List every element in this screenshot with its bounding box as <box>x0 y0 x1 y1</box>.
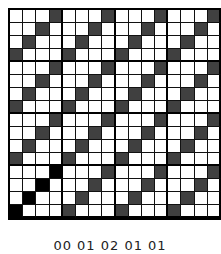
empty-cell <box>142 36 155 49</box>
empty-cell <box>36 153 49 166</box>
empty-cell <box>181 62 194 75</box>
empty-cell <box>50 153 63 166</box>
filled-cell <box>102 10 115 23</box>
filled-cell <box>63 101 76 114</box>
empty-cell <box>129 114 142 127</box>
filled-cell <box>195 23 208 36</box>
empty-cell <box>102 192 115 205</box>
empty-cell <box>129 62 142 75</box>
filled-cell <box>23 192 36 205</box>
empty-cell <box>63 75 76 88</box>
filled-cell <box>10 101 23 114</box>
filled-cell <box>36 127 49 140</box>
filled-cell <box>168 49 181 62</box>
empty-cell <box>129 205 142 218</box>
empty-cell <box>155 88 168 101</box>
filled-cell <box>208 62 221 75</box>
empty-cell <box>208 192 221 205</box>
empty-cell <box>36 205 49 218</box>
empty-cell <box>102 23 115 36</box>
empty-cell <box>63 62 76 75</box>
empty-cell <box>168 10 181 23</box>
empty-cell <box>168 166 181 179</box>
empty-cell <box>23 153 36 166</box>
empty-cell <box>10 75 23 88</box>
empty-cell <box>102 140 115 153</box>
empty-cell <box>181 75 194 88</box>
empty-cell <box>116 179 129 192</box>
empty-cell <box>76 23 89 36</box>
filled-cell <box>129 88 142 101</box>
empty-cell <box>181 166 194 179</box>
filled-cell <box>36 179 49 192</box>
filled-cell <box>89 23 102 36</box>
empty-cell <box>129 127 142 140</box>
empty-cell <box>129 153 142 166</box>
filled-cell <box>155 62 168 75</box>
empty-cell <box>50 179 63 192</box>
empty-cell <box>195 62 208 75</box>
filled-cell <box>181 192 194 205</box>
empty-cell <box>155 75 168 88</box>
filled-cell <box>168 101 181 114</box>
empty-cell <box>10 62 23 75</box>
empty-cell <box>142 49 155 62</box>
empty-cell <box>142 166 155 179</box>
empty-cell <box>168 88 181 101</box>
empty-cell <box>168 179 181 192</box>
empty-cell <box>10 36 23 49</box>
empty-cell <box>168 127 181 140</box>
empty-cell <box>129 101 142 114</box>
empty-cell <box>129 10 142 23</box>
empty-cell <box>195 49 208 62</box>
empty-cell <box>23 166 36 179</box>
filled-cell <box>195 127 208 140</box>
empty-cell <box>89 192 102 205</box>
filled-cell <box>129 36 142 49</box>
empty-cell <box>76 75 89 88</box>
empty-cell <box>36 101 49 114</box>
empty-cell <box>168 62 181 75</box>
empty-cell <box>208 101 221 114</box>
filled-cell <box>50 114 63 127</box>
empty-cell <box>208 88 221 101</box>
empty-cell <box>116 127 129 140</box>
empty-cell <box>36 36 49 49</box>
empty-cell <box>36 192 49 205</box>
empty-cell <box>168 140 181 153</box>
empty-cell <box>168 114 181 127</box>
filled-cell <box>102 62 115 75</box>
empty-cell <box>155 36 168 49</box>
empty-cell <box>116 192 129 205</box>
filled-cell <box>63 153 76 166</box>
empty-cell <box>50 36 63 49</box>
empty-cell <box>89 36 102 49</box>
empty-cell <box>63 36 76 49</box>
empty-cell <box>116 88 129 101</box>
empty-cell <box>195 114 208 127</box>
empty-cell <box>155 140 168 153</box>
filled-cell <box>10 49 23 62</box>
empty-cell <box>195 101 208 114</box>
empty-cell <box>36 88 49 101</box>
empty-cell <box>10 179 23 192</box>
empty-cell <box>10 192 23 205</box>
empty-cell <box>208 49 221 62</box>
empty-cell <box>129 23 142 36</box>
pattern-matrix <box>8 8 221 220</box>
empty-cell <box>63 140 76 153</box>
empty-cell <box>208 23 221 36</box>
filled-cell <box>155 166 168 179</box>
empty-cell <box>116 140 129 153</box>
empty-cell <box>50 23 63 36</box>
empty-cell <box>195 10 208 23</box>
empty-cell <box>168 36 181 49</box>
filled-cell <box>195 75 208 88</box>
empty-cell <box>155 205 168 218</box>
empty-cell <box>89 140 102 153</box>
empty-cell <box>181 153 194 166</box>
filled-cell <box>102 114 115 127</box>
empty-cell <box>89 62 102 75</box>
empty-cell <box>50 205 63 218</box>
empty-cell <box>195 36 208 49</box>
